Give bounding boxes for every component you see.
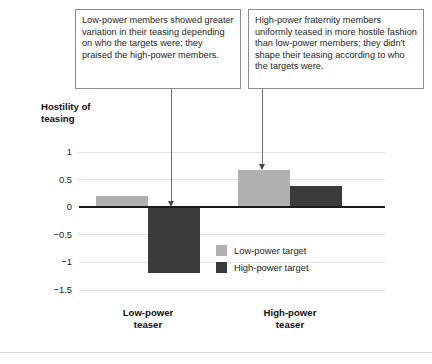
gridline: [79, 290, 385, 291]
y-tick-label: 0: [38, 202, 72, 212]
y-tick-label: 1: [38, 147, 72, 157]
y-tick-label: −1.5: [38, 285, 72, 295]
bottom-divider: [0, 352, 432, 353]
annotation-arrow-head-1: [168, 201, 174, 207]
legend-swatch-light-icon: [216, 245, 227, 256]
gridline: [79, 152, 385, 153]
gridline: [79, 234, 385, 235]
legend-swatch-dark-icon: [216, 262, 227, 273]
annotation-arrow-line-1: [171, 89, 172, 203]
y-tick-label: −0.5: [38, 230, 72, 240]
legend-item-high-power-target: High-power target: [216, 260, 309, 275]
x-category-label-2: High-power teaser: [230, 307, 350, 330]
legend-label-low-power-target: Low-power target: [234, 245, 306, 256]
annotation-arrow-head-2: [259, 164, 265, 170]
legend-item-low-power-target: Low-power target: [216, 243, 309, 258]
figure-container: Low-power members showed greater variati…: [0, 0, 432, 364]
bar-chart-plot: Hostility of teasing 10.50−0.5−1−1.5 Low…: [0, 0, 432, 364]
y-tick-label: 0.5: [38, 175, 72, 185]
zero-baseline-axis: [79, 206, 385, 208]
y-tick-label: −1: [38, 257, 72, 267]
chart-legend: Low-power target High-power target: [216, 243, 309, 277]
legend-label-high-power-target: High-power target: [234, 262, 309, 273]
bar-low-power-target-group-2: [238, 170, 290, 207]
annotation-arrow-line-2: [262, 89, 263, 166]
bar-high-power-target-group-2: [290, 186, 342, 207]
y-axis-title: Hostility of teasing: [41, 101, 91, 124]
bar-high-power-target-group-1: [148, 207, 200, 273]
gridline: [79, 179, 385, 180]
x-category-label-1: Low-power teaser: [88, 307, 208, 330]
